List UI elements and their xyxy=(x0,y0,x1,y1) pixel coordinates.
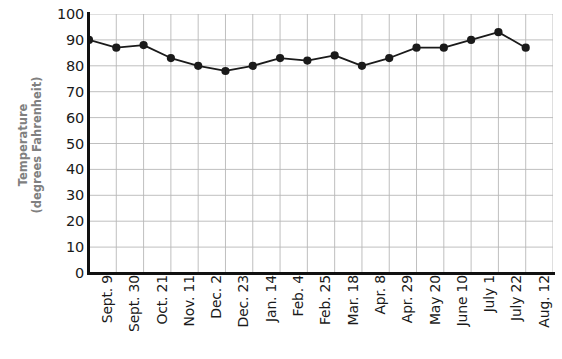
x-axis-tick-label: May 20 xyxy=(426,275,444,359)
x-axis-tick-label: Apr. 8 xyxy=(371,275,389,359)
y-axis-title-line-1: Temperature xyxy=(16,76,30,213)
data-point-marker xyxy=(303,57,311,65)
data-point-marker xyxy=(358,62,366,70)
x-axis-tick-label: June 10 xyxy=(453,275,471,359)
y-axis-tick-label: 90 xyxy=(66,32,84,48)
x-axis-tick-label: Jan. 14 xyxy=(262,275,280,359)
x-axis-tick-label: Dec. 23 xyxy=(234,275,252,359)
x-axis-tick-label: Apr. 29 xyxy=(398,275,416,359)
y-axis-title-line-2: (degrees Fahrenheit) xyxy=(30,76,44,213)
y-axis-line xyxy=(87,12,90,275)
y-axis-tick-label: 80 xyxy=(66,58,84,74)
data-point-marker xyxy=(385,54,393,62)
data-point-marker xyxy=(249,62,257,70)
data-point-marker xyxy=(331,51,339,59)
plot-area xyxy=(89,14,553,273)
data-point-marker xyxy=(440,44,448,52)
data-point-marker xyxy=(494,28,502,36)
y-axis-tick-label: 30 xyxy=(66,187,84,203)
data-point-marker xyxy=(276,54,284,62)
data-point-marker xyxy=(522,44,530,52)
data-point-marker xyxy=(139,41,147,49)
series-line xyxy=(89,32,526,71)
data-point-marker xyxy=(412,44,420,52)
data-point-marker xyxy=(467,36,475,44)
x-axis-tick-label: Feb. 25 xyxy=(316,275,334,359)
temperature-line-chart: Temperature (degrees Fahrenheit) 1009080… xyxy=(0,0,562,359)
data-point-marker xyxy=(221,67,229,75)
x-axis-tick-labels: Sept. 9Sept. 30Oct. 21Nov. 11Dec. 2Dec. … xyxy=(89,275,553,359)
y-axis-tick-label: 60 xyxy=(66,110,84,126)
x-axis-tick-label: Aug. 12 xyxy=(535,275,553,359)
y-axis-title: Temperature (degrees Fahrenheit) xyxy=(0,0,60,290)
x-axis-tick-label: Mar. 18 xyxy=(344,275,362,359)
temperature-series xyxy=(89,14,553,273)
data-point-marker xyxy=(194,62,202,70)
x-axis-tick-label: Nov. 11 xyxy=(180,275,198,359)
y-axis-tick-label: 40 xyxy=(66,161,84,177)
y-axis-tick-label: 10 xyxy=(66,239,84,255)
data-point-marker xyxy=(167,54,175,62)
y-axis-tick-label: 0 xyxy=(75,265,84,281)
y-axis-tick-label: 100 xyxy=(57,6,84,22)
y-axis-tick-label: 70 xyxy=(66,84,84,100)
x-axis-tick-label: Dec. 2 xyxy=(207,275,225,359)
x-axis-tick-label: Feb. 4 xyxy=(289,275,307,359)
x-axis-tick-label: July 1 xyxy=(480,275,498,359)
data-point-marker xyxy=(112,44,120,52)
x-axis-tick-label: Oct. 21 xyxy=(153,275,171,359)
y-axis-tick-label: 20 xyxy=(66,213,84,229)
x-axis-tick-label: July 22 xyxy=(507,275,525,359)
x-axis-tick-label: Sept. 30 xyxy=(125,275,143,359)
y-axis-tick-labels: 1009080706050403020100 xyxy=(52,0,88,290)
y-axis-tick-label: 50 xyxy=(66,136,84,152)
x-axis-tick-label: Sept. 9 xyxy=(98,275,116,359)
